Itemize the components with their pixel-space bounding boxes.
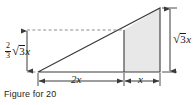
variable-left: x: [25, 46, 30, 57]
variable-right: x: [186, 34, 191, 45]
fraction-two-thirds: 2 3: [5, 42, 11, 60]
fraction-numerator: 2: [5, 42, 11, 50]
label-base-segment-left: 2x: [71, 74, 81, 85]
label-right-height: √ 3 x: [173, 33, 191, 46]
radical-expression-right: √ 3: [173, 33, 186, 46]
figure-container: 2 3 √ 3 x √ 3 x 2x x Figure for 20: [0, 0, 193, 105]
label-base-segment-right: x: [138, 74, 143, 85]
fraction-denominator: 3: [5, 52, 11, 60]
radical-expression-left: √ 3: [12, 45, 25, 58]
label-left-height: 2 3 √ 3 x: [5, 42, 30, 60]
figure-caption: Figure for 20: [4, 89, 56, 99]
